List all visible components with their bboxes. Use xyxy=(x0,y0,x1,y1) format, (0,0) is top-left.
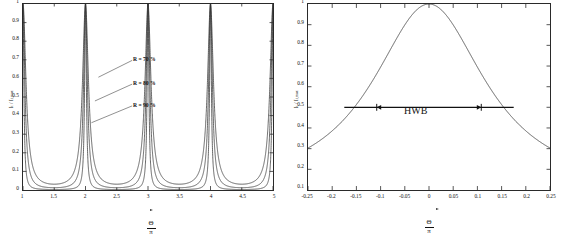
x-tick-right-015: 0.15 xyxy=(491,193,513,199)
series-annotation-r90: R = 90 % xyxy=(133,102,156,108)
x-axis-label-left-denominator: π xyxy=(140,229,162,237)
x-tick-right-005: 0.05 xyxy=(442,193,464,199)
y-tick-right-03: 0.3 xyxy=(290,142,304,148)
x-tick-right-025: 0.25 xyxy=(540,193,562,199)
hwb-arrow-right xyxy=(477,105,481,110)
y-tick-right-07: 0.7 xyxy=(290,60,304,66)
y-tick-left-1: 1 xyxy=(5,0,19,4)
x-axis-arrow-marker-right xyxy=(436,208,439,210)
y-tick-left-03: 0.3 xyxy=(5,129,19,135)
hwb-label: HWB xyxy=(404,105,427,116)
y-tick-left-04: 0.4 xyxy=(5,110,19,116)
plot-svg-right xyxy=(308,4,550,190)
x-tick-right-n025: -0.25 xyxy=(296,193,318,199)
y-tick-right-09: 0.9 xyxy=(290,19,304,25)
plot-panel-right: It / It,max 1 0.9 0.8 0.7 0.6 0.5 0.4 0.… xyxy=(284,0,568,243)
y-tickmarks-right xyxy=(308,25,550,170)
airy-curve-right xyxy=(308,4,550,148)
plot-area-left xyxy=(22,3,274,191)
plot-panel-left: It / It,max 1 0.9 0.8 0.7 0.6 0.5 0.4 0.… xyxy=(0,0,284,243)
y-tick-right-02: 0.2 xyxy=(290,163,304,169)
y-tick-right-01: 0.1 xyxy=(290,183,304,189)
x-tick-left-1: 1 xyxy=(14,193,30,199)
y-tick-left-09: 0.9 xyxy=(5,17,19,23)
y-tick-right-08: 0.8 xyxy=(290,39,304,45)
hwb-arrow-left xyxy=(377,105,381,110)
x-axis-label-right: Θ π xyxy=(418,219,440,235)
x-tick-left-3: 3 xyxy=(140,193,156,199)
y-tick-right-1: 1 xyxy=(290,0,304,4)
x-tick-right-02: 0.2 xyxy=(516,193,538,199)
y-tick-left-08: 0.8 xyxy=(5,35,19,41)
y-tick-left-02: 0.2 xyxy=(5,148,19,154)
x-tick-left-15: 1.5 xyxy=(46,193,62,199)
figure-container: It / It,max 1 0.9 0.8 0.7 0.6 0.5 0.4 0.… xyxy=(0,0,568,243)
curve-70 xyxy=(23,4,273,184)
x-tick-right-0: 0 xyxy=(418,193,440,199)
curve-90 xyxy=(23,4,273,189)
x-tick-left-35: 3.5 xyxy=(172,193,188,199)
x-axis-label-right-denominator: π xyxy=(418,228,440,236)
x-tick-left-5: 5 xyxy=(266,193,282,199)
x-axis-label-right-numerator: Θ xyxy=(418,219,440,227)
y-tickmarks-left xyxy=(23,23,273,172)
y-tick-left-07: 0.7 xyxy=(5,54,19,60)
y-tick-right-06: 0.6 xyxy=(290,80,304,86)
airy-curves-left xyxy=(23,4,273,189)
y-tick-left-01: 0.1 xyxy=(5,166,19,172)
plot-svg-left xyxy=(23,4,273,190)
x-tick-right-n01: -0.1 xyxy=(369,193,391,199)
x-tick-right-n005: -0.05 xyxy=(394,193,416,199)
x-tick-left-45: 4.5 xyxy=(235,193,251,199)
annotation-leaders-left xyxy=(91,60,132,122)
x-tickmarks-right-top xyxy=(332,4,526,8)
x-tick-left-2: 2 xyxy=(77,193,93,199)
x-tick-left-4: 4 xyxy=(203,193,219,199)
x-tick-right-n015: -0.15 xyxy=(345,193,367,199)
y-tick-right-04: 0.4 xyxy=(290,122,304,128)
x-axis-label-left: Θ π xyxy=(140,220,162,236)
series-annotation-r70: R = 70 % xyxy=(133,56,156,62)
x-tick-left-25: 2.5 xyxy=(109,193,125,199)
x-tick-right-n02: -0.2 xyxy=(320,193,342,199)
x-tickmarks-right xyxy=(308,186,550,190)
x-axis-arrow-marker-left xyxy=(150,209,153,211)
y-tick-left-05: 0.5 xyxy=(5,92,19,98)
hwb-measurement-group xyxy=(344,104,513,111)
y-tick-left-06: 0.6 xyxy=(5,73,19,79)
x-tick-right-01: 0.1 xyxy=(467,193,489,199)
transmission-curve xyxy=(308,4,550,148)
curve-80 xyxy=(23,4,273,188)
x-axis-label-left-numerator: Θ xyxy=(140,220,162,228)
series-annotation-r80: R = 80 % xyxy=(133,80,156,86)
plot-area-right xyxy=(307,3,551,191)
y-tick-left-0: 0 xyxy=(5,185,19,191)
y-tick-right-05: 0.5 xyxy=(290,101,304,107)
